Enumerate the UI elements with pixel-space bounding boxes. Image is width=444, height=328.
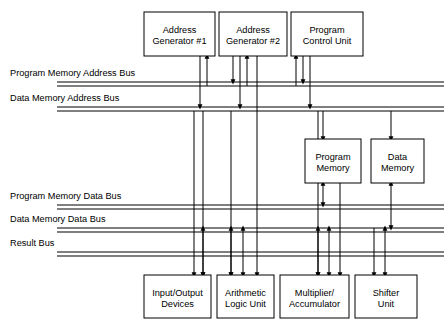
unit-label-line1-address-generator-2: Address (236, 25, 270, 35)
unit-label-line2-program-control-unit: Control Unit (303, 36, 352, 46)
bus-label-program-memory-data-bus: Program Memory Data Bus (10, 191, 122, 201)
unit-data-memory[interactable]: DataMemory (371, 139, 424, 183)
unit-label-line2-program-memory: Memory (316, 163, 350, 173)
unit-label-line1-arithmetic-logic-unit: Arithmetic (225, 288, 266, 298)
unit-label-line1-shifter-unit: Shifter (373, 288, 400, 298)
unit-label-line2-input-output-devices: Devices (161, 299, 194, 309)
bus-label-program-memory-address-bus: Program Memory Address Bus (10, 68, 136, 78)
unit-program-memory[interactable]: ProgramMemory (305, 139, 361, 183)
bus-label-data-memory-data-bus: Data Memory Data Bus (10, 214, 106, 224)
unit-label-line1-input-output-devices: Input/Output (152, 288, 203, 298)
unit-address-generator-1[interactable]: AddressGenerator #1 (144, 12, 215, 56)
diagram-canvas: AddressGenerator #1AddressGenerator #2Pr… (0, 0, 444, 328)
bus-labels-group: Program Memory Address BusData Memory Ad… (10, 68, 136, 248)
unit-label-line2-data-memory: Memory (381, 163, 415, 173)
unit-label-line1-address-generator-1: Address (163, 25, 197, 35)
unit-label-line2-multiplier-accumulator: Accumulator (289, 299, 340, 309)
dsp-architecture-diagram: AddressGenerator #1AddressGenerator #2Pr… (0, 0, 444, 328)
bus-label-result-bus: Result Bus (10, 238, 55, 248)
unit-multiplier-accumulator[interactable]: Multiplier/Accumulator (280, 275, 349, 318)
unit-label-line2-arithmetic-logic-unit: Logic Unit (225, 299, 266, 309)
unit-shifter-unit[interactable]: ShifterUnit (355, 275, 417, 318)
unit-program-control-unit[interactable]: ProgramControl Unit (291, 12, 363, 56)
unit-label-line2-address-generator-1: Generator #1 (152, 36, 206, 46)
unit-label-line1-data-memory: Data (388, 152, 408, 162)
unit-label-line2-shifter-unit: Unit (378, 299, 395, 309)
unit-label-line1-program-control-unit: Program (309, 25, 345, 35)
unit-label-line2-address-generator-2: Generator #2 (226, 36, 280, 46)
bus-label-data-memory-address-bus: Data Memory Address Bus (10, 93, 120, 103)
unit-arithmetic-logic-unit[interactable]: ArithmeticLogic Unit (217, 275, 274, 318)
unit-label-line1-multiplier-accumulator: Multiplier/ (295, 288, 335, 298)
unit-address-generator-2[interactable]: AddressGenerator #2 (219, 12, 287, 56)
unit-input-output-devices[interactable]: Input/OutputDevices (144, 275, 211, 318)
unit-boxes-group: AddressGenerator #1AddressGenerator #2Pr… (144, 12, 424, 318)
unit-label-line1-program-memory: Program (315, 152, 351, 162)
